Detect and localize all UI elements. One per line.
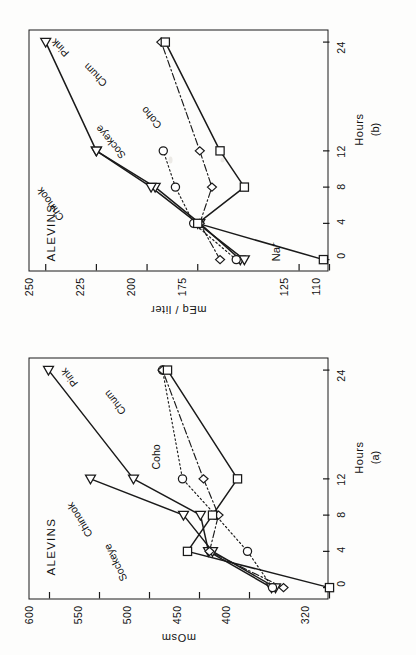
panel-a-letter: (a) [368, 427, 380, 487]
panel-a-ytick-500: 500 [120, 605, 132, 647]
panel-b-y-axis-title: mEq / liter [138, 303, 218, 315]
panel-a-xtick-24: 24 [334, 369, 346, 381]
panel-a-xtick-12: 12 [334, 473, 346, 485]
panel-b-x-axis-title: Hours [352, 99, 364, 159]
figure-page: 600 550 500 450 400 320 0 4 8 12 24 mOsm… [0, 0, 416, 655]
panel-a-plot-svg [29, 356, 329, 598]
panel-a-ytick-320: 320 [298, 605, 310, 647]
panel-b-xtick-12: 12 [334, 145, 346, 157]
panel-a-xtick-0: 0 [334, 580, 346, 586]
panel-a-group-label: ALEVINS [44, 517, 56, 575]
panel-b-ion-charge: + [268, 242, 277, 247]
panel-a-ytick-400: 400 [219, 605, 231, 647]
panel-b-xtick-24: 24 [334, 41, 346, 53]
panel-b-ytick-225: 225 [73, 277, 85, 319]
panel-a-ytick-550: 550 [71, 605, 83, 647]
panel-a-plot-frame [28, 357, 328, 599]
scan-speck [220, 157, 224, 162]
scan-speck [168, 156, 172, 163]
panel-a-label-coho: Coho [149, 444, 161, 469]
panel-a-y-axis-title: mOsm [148, 631, 208, 643]
panel-a-x-axis-title: Hours [352, 427, 364, 487]
panel-b-ion-symbol: Na [270, 246, 282, 261]
panel-b-xtick-0: 0 [334, 252, 346, 258]
panel-a-ytick-600: 600 [22, 605, 34, 647]
panel-b-plot-frame [28, 29, 328, 271]
panel-b-plot-svg [29, 28, 329, 270]
panel-a-mosm: 600 550 500 450 400 320 0 4 8 12 24 mOsm… [0, 328, 416, 655]
panel-b-xtick-8: 8 [334, 183, 346, 189]
panel-b-ytick-125: 125 [277, 277, 289, 319]
panel-b-xtick-4: 4 [334, 218, 346, 224]
figure-stage: 600 550 500 450 400 320 0 4 8 12 24 mOsm… [0, 0, 416, 655]
panel-a-xtick-8: 8 [334, 511, 346, 517]
panel-b-ytick-200: 200 [124, 277, 136, 319]
panel-b-ytick-250: 250 [22, 277, 34, 319]
panel-a-xtick-4: 4 [334, 546, 346, 552]
panel-b-sodium: 250 225 200 175 125 110 0 4 8 12 24 mEq … [0, 0, 416, 327]
panel-b-letter: (b) [368, 99, 380, 159]
panel-b-ion-label: Na+ [268, 242, 282, 261]
panel-b-ytick-110: 110 [309, 277, 321, 319]
